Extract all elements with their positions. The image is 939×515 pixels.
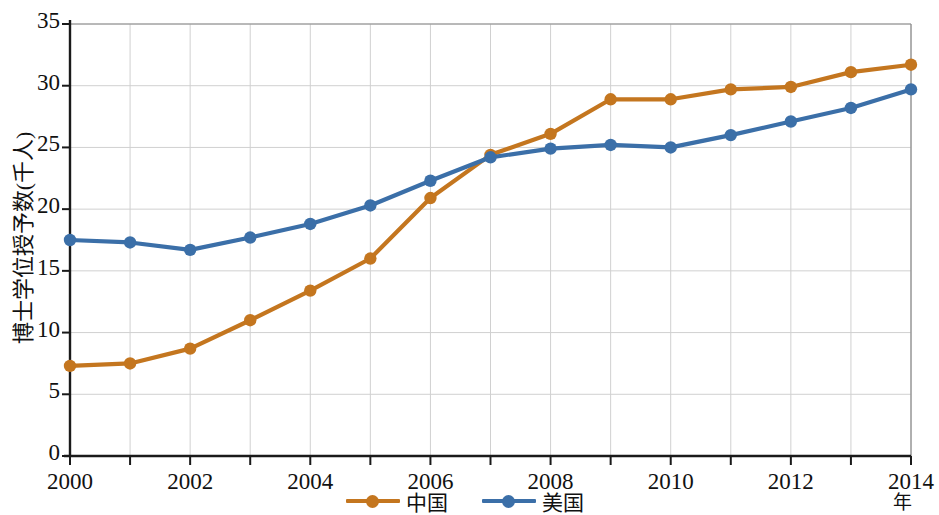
data-point — [725, 129, 737, 141]
legend-label: 中国 — [406, 486, 448, 515]
data-point — [124, 236, 136, 248]
data-point — [544, 128, 556, 140]
data-point — [905, 59, 917, 71]
data-point — [184, 342, 196, 354]
data-point — [64, 234, 76, 246]
data-point — [484, 151, 496, 163]
data-point — [544, 142, 556, 154]
data-point — [845, 102, 857, 114]
data-point — [364, 252, 376, 264]
data-point — [64, 360, 76, 372]
data-point — [304, 218, 316, 230]
data-point — [905, 83, 917, 95]
data-point — [665, 141, 677, 153]
data-point — [124, 357, 136, 369]
legend-marker-icon — [346, 494, 400, 508]
data-point — [364, 199, 376, 211]
data-point — [604, 139, 616, 151]
legend-marker-icon — [482, 494, 536, 508]
legend-item[interactable]: 中国 — [346, 486, 448, 515]
legend-item[interactable]: 美国 — [482, 486, 584, 515]
data-point — [244, 314, 256, 326]
data-point — [424, 192, 436, 204]
data-point — [244, 231, 256, 243]
data-point — [845, 66, 857, 78]
data-point — [725, 83, 737, 95]
legend-label: 美国 — [542, 486, 584, 515]
chart-legend: 中国美国 — [0, 486, 930, 515]
data-point — [184, 244, 196, 256]
data-point — [424, 175, 436, 187]
data-point — [304, 284, 316, 296]
data-point — [785, 81, 797, 93]
data-point — [604, 93, 616, 105]
data-point — [785, 115, 797, 127]
data-point — [665, 93, 677, 105]
